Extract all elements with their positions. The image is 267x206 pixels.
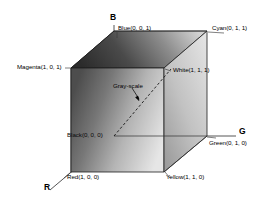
cube-faces <box>71 31 207 172</box>
rgb-color-cube-figure: B G R Blue(0, 0, 1) Cyan(0, 1, 1) Magent… <box>0 0 267 206</box>
vertex-label-magenta: Magenta(1, 0, 1) <box>17 64 62 70</box>
vertex-label-yellow: Yellow(1, 1, 0) <box>166 174 204 180</box>
leader-green <box>207 137 216 138</box>
vertex-label-white: White(1, 1, 1) <box>173 67 209 73</box>
vertex-label-black: Black(0, 0, 0) <box>67 132 103 138</box>
axis-label-g: G <box>239 127 246 136</box>
vertex-label-red: Red(1, 0, 0) <box>67 174 99 180</box>
vertex-label-cyan: Cyan(0, 1, 1) <box>212 25 247 31</box>
vertex-label-green: Green(0, 1, 0) <box>209 140 247 146</box>
gray-scale-label: Gray-scale <box>113 83 143 89</box>
vertex-label-blue: Blue(0, 0, 1) <box>118 25 151 31</box>
axis-label-r: R <box>44 183 50 192</box>
leader-cyan <box>208 32 224 33</box>
axis-label-b: B <box>110 13 116 22</box>
